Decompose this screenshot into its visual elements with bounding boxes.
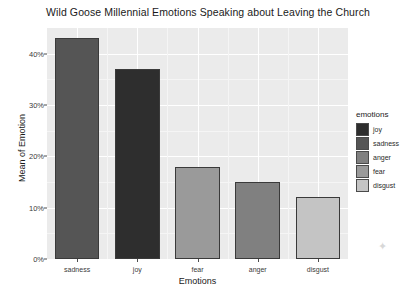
x-axis-title: Emotions bbox=[47, 276, 348, 286]
plot-panel bbox=[47, 28, 348, 259]
bar-anger[interactable] bbox=[235, 182, 280, 259]
bar-fear[interactable] bbox=[175, 167, 220, 259]
chart-title: Wild Goose Millennial Emotions Speaking … bbox=[0, 6, 416, 18]
x-axis-tick-mark bbox=[137, 259, 138, 262]
x-axis-tick-label-joy: joy bbox=[133, 266, 142, 273]
x-axis-tick-label-disgust: disgust bbox=[307, 266, 329, 273]
legend-label: fear bbox=[373, 168, 385, 175]
legend: emotions joysadnessangerfeardisgust bbox=[356, 110, 399, 192]
legend-label: sadness bbox=[373, 140, 399, 147]
y-axis-tick-label: 0% bbox=[0, 255, 44, 264]
chart-container: Wild Goose Millennial Emotions Speaking … bbox=[0, 0, 416, 289]
legend-item-anger[interactable]: anger bbox=[356, 150, 399, 164]
watermark-icon: ✦ bbox=[378, 240, 387, 253]
x-axis-tick-mark bbox=[198, 259, 199, 262]
bar-joy[interactable] bbox=[115, 69, 160, 259]
legend-label: joy bbox=[373, 126, 382, 133]
legend-swatch-disgust bbox=[356, 179, 369, 192]
x-axis-tick-label-sadness: sadness bbox=[64, 266, 90, 273]
x-axis-tick-label-anger: anger bbox=[249, 266, 267, 273]
legend-items: joysadnessangerfeardisgust bbox=[356, 122, 399, 192]
legend-swatch-sadness bbox=[356, 137, 369, 150]
y-axis-tick-mark bbox=[44, 259, 47, 260]
legend-swatch-fear bbox=[356, 165, 369, 178]
legend-item-joy[interactable]: joy bbox=[356, 122, 399, 136]
x-axis-tick-mark bbox=[77, 259, 78, 262]
legend-label: disgust bbox=[373, 182, 395, 189]
legend-swatch-joy bbox=[356, 123, 369, 136]
y-axis-tick-mark bbox=[44, 105, 47, 106]
y-axis-tick-mark bbox=[44, 207, 47, 208]
legend-swatch-anger bbox=[356, 151, 369, 164]
y-axis-tick-mark bbox=[44, 156, 47, 157]
bar-series bbox=[47, 28, 348, 259]
y-axis-tick-mark bbox=[44, 53, 47, 54]
bar-sadness[interactable] bbox=[55, 38, 100, 259]
x-axis-tick-mark bbox=[318, 259, 319, 262]
x-axis-tick-label-fear: fear bbox=[191, 266, 203, 273]
legend-item-disgust[interactable]: disgust bbox=[356, 178, 399, 192]
legend-item-fear[interactable]: fear bbox=[356, 164, 399, 178]
y-axis-tick-label: 40% bbox=[0, 49, 44, 58]
legend-label: anger bbox=[373, 154, 391, 161]
x-axis-tick-mark bbox=[258, 259, 259, 262]
legend-title: emotions bbox=[356, 110, 399, 119]
bar-disgust[interactable] bbox=[296, 197, 341, 259]
legend-item-sadness[interactable]: sadness bbox=[356, 136, 399, 150]
y-axis-title: Mean of Emotion bbox=[17, 78, 27, 218]
